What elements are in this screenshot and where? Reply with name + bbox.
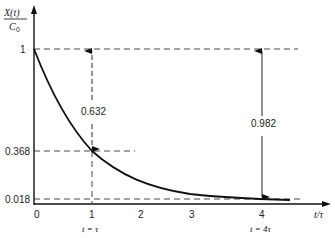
y-tick-0018: 0.018 (5, 194, 30, 205)
y-axis-label-numerator: X(t) (3, 7, 20, 19)
label-t-equals-tau: t = τ (82, 224, 99, 234)
x-axis-arrow-icon (322, 201, 331, 207)
axes (31, 5, 331, 207)
y-axis-arrow-icon (31, 5, 37, 14)
x-tick-3: 3 (189, 209, 195, 220)
y-axis-label-denominator: C (9, 21, 16, 32)
y-tick-1: 1 (20, 44, 26, 55)
x-tick-4: 4 (259, 209, 265, 220)
annotation-0982: 0.982 (251, 118, 276, 129)
x-tick-0: 0 (34, 209, 40, 220)
y-tick-0368: 0.368 (5, 146, 30, 157)
annotation-0632: 0.632 (81, 106, 106, 117)
label-t-equals-4tau: t = 4τ (250, 224, 272, 234)
decay-chart: X(t) C 0 1 0.368 0.018 0 1 2 3 4 t/τ 0.6… (0, 0, 335, 238)
x-axis-label: t/τ (314, 209, 324, 220)
x-tick-1: 1 (89, 209, 95, 220)
y-axis-label-denominator-sub: 0 (16, 26, 20, 33)
annotation-arrows (92, 51, 262, 197)
x-tick-2: 2 (138, 209, 144, 220)
